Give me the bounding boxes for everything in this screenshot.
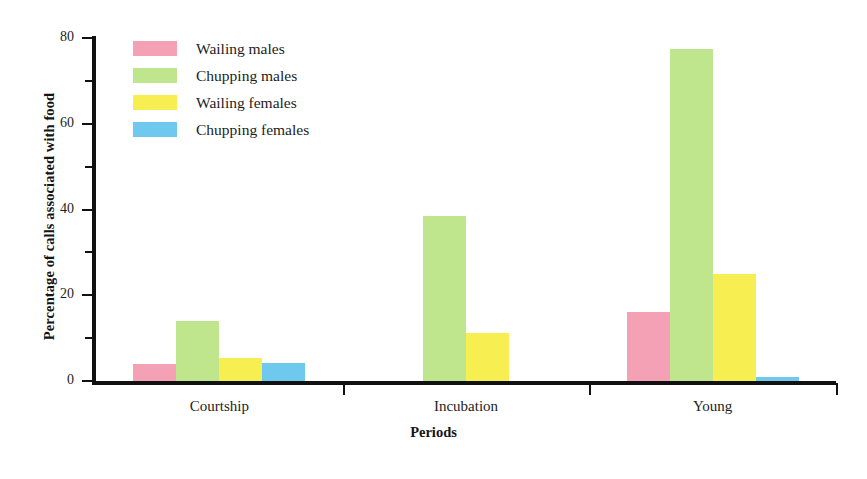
legend-swatch-icon	[133, 41, 177, 56]
bar-incubation-wailing-females	[466, 333, 509, 381]
y-tick-label: 0	[0, 372, 74, 388]
x-tick-end	[836, 383, 838, 395]
x-category-label-incubation: Incubation	[343, 398, 590, 415]
legend-swatch-icon	[133, 68, 177, 83]
bar-young-wailing-females	[713, 274, 756, 381]
y-tick-minor	[85, 80, 93, 82]
bar-courtship-wailing-males	[133, 364, 176, 381]
legend-swatch-icon	[133, 95, 177, 110]
bar-young-wailing-males	[627, 312, 670, 381]
x-tick-separator	[589, 383, 591, 395]
bar-young-chupping-males	[670, 49, 713, 381]
y-tick-minor	[85, 251, 93, 253]
legend-label: Wailing females	[196, 95, 297, 111]
legend-swatch-icon	[133, 122, 177, 137]
bar-courtship-chupping-females	[262, 363, 305, 381]
y-tick-major	[82, 209, 93, 211]
legend-label: Chupping females	[196, 122, 309, 138]
x-axis-title: Periods	[0, 424, 867, 441]
y-tick-major	[82, 294, 93, 296]
y-tick-label: 60	[0, 115, 74, 131]
legend-label: Wailing males	[196, 41, 285, 57]
y-tick-label: 40	[0, 201, 74, 217]
y-tick-minor	[85, 166, 93, 168]
y-axis-title: Percentage of calls associated with food	[41, 42, 58, 392]
x-axis-line	[92, 381, 836, 385]
y-tick-major	[82, 37, 93, 39]
legend-item: Chupping females	[133, 121, 309, 138]
y-tick-label: 80	[0, 29, 74, 45]
legend-item: Wailing females	[133, 94, 309, 111]
legend-item: Chupping males	[133, 67, 309, 84]
y-tick-minor	[85, 337, 93, 339]
x-tick-separator	[343, 383, 345, 395]
bar-incubation-chupping-males	[423, 216, 466, 381]
y-tick-major	[82, 123, 93, 125]
bar-young-chupping-females	[756, 377, 799, 381]
bar-chart-figure: Percentage of calls associated with food…	[0, 0, 867, 479]
bar-courtship-wailing-females	[219, 358, 262, 381]
y-tick-major	[82, 380, 93, 382]
bar-courtship-chupping-males	[176, 321, 219, 381]
legend-item: Wailing males	[133, 40, 309, 57]
x-category-label-young: Young	[589, 398, 836, 415]
y-tick-label: 20	[0, 286, 74, 302]
chart-legend: Wailing malesChupping malesWailing femal…	[133, 40, 309, 138]
x-category-label-courtship: Courtship	[96, 398, 343, 415]
legend-label: Chupping males	[196, 68, 297, 84]
